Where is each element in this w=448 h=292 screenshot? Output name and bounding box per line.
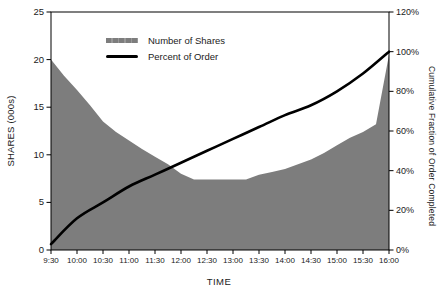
x-axis-title: TIME [207,276,232,287]
x-axis-tick-label: 12:30 [197,256,218,265]
x-axis-tick-label: 10:00 [67,256,88,265]
left-axis-title: SHARES (000s) [5,95,16,166]
right-axis-tick-label: 100% [396,47,419,57]
x-axis-tick-label: 15:30 [353,256,374,265]
right-axis-tick-label: 80% [396,86,414,96]
right-axis-title: Cumulative Fraction of Order Completed [427,66,437,226]
x-axis-tick-label: 9:30 [43,256,59,265]
legend-label-percent: Percent of Order [148,51,218,62]
shares-area-series [51,55,389,250]
x-axis-tick-label: 12:00 [171,256,192,265]
x-axis-tick-label: 11:00 [119,256,139,265]
left-axis-tick-label: 0 [39,244,44,255]
left-axis-tick-label: 15 [33,101,44,112]
legend: Number of Shares Percent of Order [106,35,225,62]
x-axis-tick-label: 14:00 [275,256,296,265]
right-axis-tick-label: 20% [396,205,414,215]
left-axis-tick-label: 25 [33,6,44,17]
shares-area-swatch-icon [106,38,138,43]
right-axis-tick-label: 120% [396,7,419,17]
x-axis-tick-label: 10:30 [93,256,114,265]
x-axis-tick-label: 16:00 [379,256,400,265]
x-axis-tick-label: 11:30 [145,256,165,265]
right-axis-tick-label: 40% [396,166,414,176]
right-axis-tick-label: 0% [396,245,409,255]
percent-line-swatch-icon [106,55,138,58]
x-axis-tick-label: 13:30 [249,256,270,265]
legend-label-shares: Number of Shares [148,35,225,46]
left-axis-tick-label: 10 [33,149,44,160]
legend-item-shares: Number of Shares [106,35,225,46]
x-axis-tick-label: 15:00 [327,256,348,265]
left-axis-tick-label: 20 [33,54,44,65]
legend-item-percent: Percent of Order [106,51,225,62]
vwap-volume-chart: 05101520250%20%40%60%80%100%120%9:3010:0… [0,0,448,292]
x-axis-tick-label: 14:30 [301,256,322,265]
right-axis-tick-label: 60% [396,126,414,136]
left-axis-tick-label: 5 [39,196,44,207]
x-axis-tick-label: 13:00 [223,256,244,265]
